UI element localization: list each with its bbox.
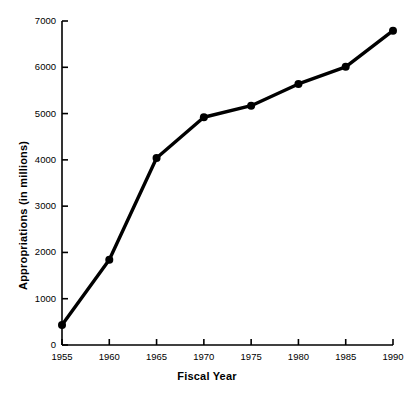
data-point-marker <box>389 27 397 35</box>
x-axis-title: Fiscal Year <box>0 370 414 382</box>
x-tick-label: 1980 <box>276 351 320 362</box>
y-tick-label: 0 <box>10 339 56 350</box>
data-point-marker <box>247 102 255 110</box>
x-tick-label: 1965 <box>135 351 179 362</box>
y-tick-label: 1000 <box>10 293 56 304</box>
chart-container: 01000200030004000500060007000 1955196019… <box>0 0 414 393</box>
data-point-marker <box>200 113 208 121</box>
x-axis-ticks <box>62 339 393 345</box>
x-tick-label: 1970 <box>182 351 226 362</box>
x-tick-label: 1990 <box>371 351 414 362</box>
data-point-marker <box>342 63 350 71</box>
x-tick-label: 1960 <box>87 351 131 362</box>
y-tick-label: 7000 <box>10 15 56 26</box>
data-point-marker <box>58 321 66 329</box>
x-tick-label: 1975 <box>229 351 273 362</box>
data-point-marker <box>294 80 302 88</box>
x-tick-label: 1985 <box>324 351 368 362</box>
y-tick-label: 5000 <box>10 108 56 119</box>
data-point-marker <box>153 154 161 162</box>
data-point-marker <box>105 256 113 264</box>
y-tick-label: 6000 <box>10 61 56 72</box>
y-axis-ticks <box>62 21 68 345</box>
line-chart-plot <box>0 0 414 393</box>
x-tick-label: 1955 <box>40 351 84 362</box>
data-series-line <box>62 31 393 325</box>
y-axis-title: Appropriations (in millions) <box>17 141 29 290</box>
data-point-markers <box>58 27 397 329</box>
